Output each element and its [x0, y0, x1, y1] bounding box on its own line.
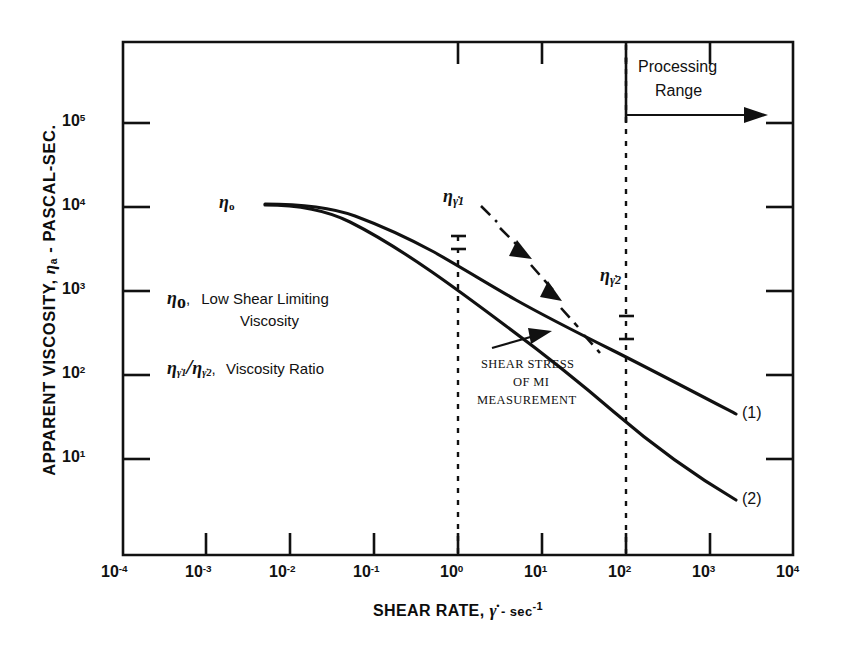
annotation-eta-zero: ηo: [219, 192, 234, 213]
x-axis-title: SHEAR RATE, γ̇ - sec-1: [123, 600, 793, 621]
y-axis-title-eta: η: [40, 264, 59, 274]
y-axis-title-sub: a: [48, 258, 59, 264]
y-axis-title-pre: APPARENT VISCOSITY,: [40, 274, 58, 475]
y-tick-label-1e1: 101: [62, 448, 85, 466]
curve-2: [265, 205, 736, 500]
y-axis-ticks: [123, 123, 150, 459]
y-axis-ticks-right: [766, 123, 793, 459]
eta-zero-symbol: η: [219, 192, 229, 212]
x-axis-title-pre: SHEAR RATE,: [373, 602, 490, 619]
eta-gamma-2-subscript: γ̇2: [610, 273, 621, 287]
ratio-eta2-subscript: γ̇2: [202, 367, 211, 378]
processing-range-label-line2: Range: [655, 82, 702, 100]
y-tick-exp-1e2: 2: [80, 364, 86, 375]
y-tick-base-1e4: 10: [62, 196, 80, 213]
shear-stress-label-line1: SHEAR STRESS: [481, 357, 574, 372]
x-tick-base-1e-3: 10: [185, 563, 203, 580]
y-tick-label-1e3: 103: [62, 280, 85, 298]
eta-gamma-1-subscript: γ̇1: [453, 194, 464, 208]
x-tick-base-1e-4: 10: [101, 563, 119, 580]
eta-gamma-1-symbol: η: [443, 186, 453, 206]
shear-stress-label-line2: OF MI: [513, 375, 549, 390]
x-tick-label-1e3: 103: [692, 563, 715, 581]
y-tick-base-1e2: 10: [62, 364, 80, 381]
legend-eta-symbol: η: [167, 288, 177, 308]
x-tick-base-1e4: 10: [776, 563, 794, 580]
x-tick-base-1e-2: 10: [269, 563, 287, 580]
processing-range-label-line1: Processing: [638, 58, 717, 76]
ratio-comma: ,: [212, 360, 216, 377]
processing-range-arrow-head: [744, 107, 768, 123]
x-tick-exp-1e4: 4: [794, 563, 800, 574]
ratio-eta2-symbol: η: [192, 358, 202, 378]
y-tick-exp-1e1: 1: [80, 448, 86, 459]
y-axis-title-post: - PASCAL-SEC.: [40, 124, 58, 258]
x-tick-label-1e-3: 10-3: [185, 563, 212, 581]
x-axis-title-mid: - sec: [497, 604, 533, 619]
x-tick-exp-1e-4: -4: [119, 563, 128, 574]
x-tick-exp-1e2: 2: [626, 563, 632, 574]
x-tick-exp-1e1: 1: [542, 563, 548, 574]
y-tick-exp-1e4: 4: [80, 196, 86, 207]
x-tick-base-1e2: 10: [608, 563, 626, 580]
legend-eta-text: Low Shear Limiting: [201, 290, 329, 307]
y-tick-label-1e4: 104: [62, 196, 85, 214]
y-tick-base-1e3: 10: [62, 280, 80, 297]
x-tick-base-1e3: 10: [692, 563, 710, 580]
figure-viscosity-vs-shear-rate: APPARENT VISCOSITY, ηa - PASCAL-SEC. SHE…: [0, 0, 853, 646]
x-tick-label-1e-1: 10-1: [353, 563, 380, 581]
legend-eta-subscript: o: [177, 292, 186, 312]
legend-eta-comma: ,: [186, 290, 190, 307]
eta-zero-subscript: o: [229, 200, 235, 212]
y-tick-base-1e1: 10: [62, 448, 80, 465]
x-tick-base-1e1: 10: [524, 563, 542, 580]
y-axis-title: APPARENT VISCOSITY, ηa - PASCAL-SEC.: [40, 90, 60, 510]
ratio-eta1-subscript: γ̇1: [177, 367, 186, 378]
x-tick-base-1e-1: 10: [353, 563, 371, 580]
legend-note-viscosity-ratio: ηγ̇1/ηγ̇2, Viscosity Ratio: [167, 354, 324, 380]
x-tick-exp-1e3: 3: [710, 563, 716, 574]
legend-note-eta-zero: ηo, Low Shear Limiting: [167, 288, 329, 313]
x-tick-exp-1e-3: -3: [203, 563, 212, 574]
y-tick-exp-1e3: 3: [80, 280, 86, 291]
x-tick-base-1e0: 10: [440, 563, 458, 580]
eta-gamma-2-symbol: η: [600, 265, 610, 285]
x-tick-label-1e-4: 10-4: [101, 563, 128, 581]
x-tick-exp-1e0: 0: [458, 563, 464, 574]
gamma-dot-symbol: γ̇: [489, 601, 496, 620]
x-axis-title-sup: -1: [533, 600, 544, 612]
x-tick-label-1e0: 100: [440, 563, 463, 581]
curve-1-label: (1): [742, 404, 762, 422]
reference-lines: [458, 45, 626, 553]
x-tick-label-1e4: 104: [776, 563, 799, 581]
curve-2-label: (2): [742, 490, 762, 508]
y-tick-label-1e2: 102: [62, 364, 85, 382]
x-tick-exp-1e-2: -2: [287, 563, 296, 574]
curve-1: [265, 204, 736, 414]
y-tick-label-1e5: 105: [62, 112, 85, 130]
legend-note-eta-zero-line2: Viscosity: [240, 312, 299, 329]
annotation-eta-gamma-1: ηγ̇1: [443, 186, 464, 209]
x-tick-label-1e1: 101: [524, 563, 547, 581]
annotation-eta-gamma-2: ηγ̇2: [600, 265, 621, 288]
x-tick-exp-1e-1: -1: [371, 563, 380, 574]
chart-canvas: [0, 0, 853, 646]
shear-stress-label-line3: MEASUREMENT: [477, 393, 577, 408]
ratio-eta1-symbol: η: [167, 358, 177, 378]
x-tick-label-1e-2: 10-2: [269, 563, 296, 581]
y-tick-base-1e5: 10: [62, 112, 80, 129]
x-tick-label-1e2: 102: [608, 563, 631, 581]
ratio-text: Viscosity Ratio: [226, 360, 324, 377]
y-tick-exp-1e5: 5: [80, 112, 86, 123]
